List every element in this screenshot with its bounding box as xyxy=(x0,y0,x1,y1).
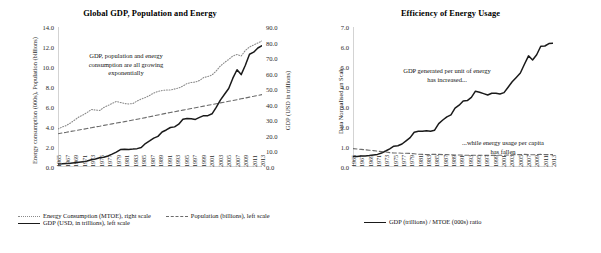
y-axis-title-left: Energy consumption (000s), Population (b… xyxy=(31,31,38,171)
x-tick-label: 1985 xyxy=(140,155,147,167)
y-tick-label: 10.0 xyxy=(42,64,54,71)
legend-swatch-dotted-icon xyxy=(18,213,40,219)
y-tick-label: 30.0 xyxy=(266,117,278,124)
y-tick-label: 70.0 xyxy=(266,55,278,62)
y-tick-label: 50.0 xyxy=(266,86,278,93)
y-tick-label: 0.0 xyxy=(266,164,274,171)
x-tick-label: 1989 xyxy=(157,155,164,167)
y-tick-label: 14.0 xyxy=(42,24,54,31)
x-tick-label: 2013 xyxy=(259,155,266,167)
legend-left: Energy Consumption (MTOE), right scalePo… xyxy=(18,212,300,226)
x-tick-label: 2005 xyxy=(516,155,523,167)
x-tick-label: 1993 xyxy=(466,155,473,167)
x-tick-label: 1967 xyxy=(63,155,70,167)
legend-row: GDP (USD, in trillions), left scale xyxy=(18,219,300,226)
y-tick-label: 10.0 xyxy=(266,148,278,155)
legend-row: GDP (trillions) / MTOE (000s) ratio xyxy=(364,218,594,225)
chart-title-right: Efficiency of Energy Usage xyxy=(300,9,601,18)
legend-item[interactable]: Population (billions), left scale xyxy=(166,212,270,219)
chart-panel-global-gdp: Global GDP, Population and Energy Energy… xyxy=(0,0,300,253)
annotation-growth: GDP, population and energy consumption a… xyxy=(80,52,172,78)
x-tick-label: 1983 xyxy=(131,155,138,167)
x-tick-label: 1977 xyxy=(400,155,407,167)
chart-panel-efficiency: Efficiency of Energy Usage Data Normalis… xyxy=(300,0,601,253)
x-tick-label: 2009 xyxy=(242,155,249,167)
legend-item[interactable]: GDP (USD, in trillions), left scale xyxy=(18,219,130,226)
x-tick-label: 1981 xyxy=(416,155,423,167)
y-tick-label: 20.0 xyxy=(266,132,278,139)
x-tick-label: 2001 xyxy=(208,155,215,167)
x-tick-label: 1983 xyxy=(425,155,432,167)
y-tick-label: 12.0 xyxy=(42,44,54,51)
y-tick-label: 6.0 xyxy=(341,44,349,51)
legend-label: Energy Consumption (MTOE), right scale xyxy=(43,212,151,219)
x-tick-label: 1993 xyxy=(174,155,181,167)
x-tick-label: 2001 xyxy=(500,155,507,167)
annotation-energy-per-capita: ...while energy usage per capita has fal… xyxy=(457,139,549,156)
legend-label: GDP (trillions) / MTOE (000s) ratio xyxy=(389,218,481,225)
y-tick-label: 7.0 xyxy=(341,24,349,31)
x-tick-label: 2013 xyxy=(550,155,557,167)
x-tick-label: 1975 xyxy=(97,155,104,167)
x-tick-label: 1967 xyxy=(358,155,365,167)
x-tick-label: 1981 xyxy=(123,155,130,167)
y-tick-label: 3.0 xyxy=(341,104,349,111)
legend-swatch-dashed-icon xyxy=(166,213,188,219)
series-canvas-left xyxy=(58,27,262,167)
x-tick-label: 2007 xyxy=(233,155,240,167)
x-tick-label: 1971 xyxy=(375,155,382,167)
annotation-gdp-per-energy: GDP generated per unit of energy has inc… xyxy=(399,67,495,84)
plot-area-right: 0.01.02.03.04.05.06.07.0 196519671969197… xyxy=(353,27,553,167)
y-axis-title-right: Data Normalised on Scale xyxy=(337,46,344,156)
x-tick-label: 1973 xyxy=(89,155,96,167)
y-tick-label: 5.0 xyxy=(341,64,349,71)
x-tick-label: 1987 xyxy=(148,155,155,167)
legend-label: Population (billions), left scale xyxy=(191,212,270,219)
x-tick-label: 2009 xyxy=(533,155,540,167)
x-tick-label: 1965 xyxy=(350,155,357,167)
legend-item[interactable]: GDP (trillions) / MTOE (000s) ratio xyxy=(364,218,481,225)
x-tick-label: 1969 xyxy=(366,155,373,167)
x-tick-label: 1969 xyxy=(72,155,79,167)
y-tick-label: 0.0 xyxy=(341,164,349,171)
y-tick-label: 60.0 xyxy=(266,70,278,77)
legend-right: GDP (trillions) / MTOE (000s) ratio xyxy=(364,218,594,225)
legend-item[interactable]: Energy Consumption (MTOE), right scale xyxy=(18,212,151,219)
y-tick-label: 90.0 xyxy=(266,24,278,31)
figure-root: Global GDP, Population and Energy Energy… xyxy=(0,0,601,253)
x-tick-label: 1997 xyxy=(191,155,198,167)
y-tick-label: 2.0 xyxy=(46,144,54,151)
y-tick-label: 4.0 xyxy=(341,84,349,91)
x-tick-label: 2003 xyxy=(508,155,515,167)
y-tick-label: 8.0 xyxy=(46,84,54,91)
x-tick-label: 1991 xyxy=(165,155,172,167)
x-tick-label: 1973 xyxy=(383,155,390,167)
x-tick-label: 2003 xyxy=(216,155,223,167)
x-tick-label: 1975 xyxy=(391,155,398,167)
x-tick-label: 2007 xyxy=(525,155,532,167)
y-tick-label: 2.0 xyxy=(341,124,349,131)
y-axis-title-left-secondary: GDP (USD in trillions) xyxy=(284,46,291,156)
x-tick-label: 1991 xyxy=(458,155,465,167)
legend-swatch-solid-icon xyxy=(18,220,40,226)
x-tick-label: 1999 xyxy=(199,155,206,167)
x-tick-label: 1979 xyxy=(114,155,121,167)
x-tick-label: 1995 xyxy=(475,155,482,167)
x-tick-label: 2005 xyxy=(225,155,232,167)
legend-swatch-solid-icon xyxy=(364,219,386,225)
x-tick-label: 1997 xyxy=(483,155,490,167)
x-tick-label: 2011 xyxy=(541,155,548,167)
y-tick-label: 1.0 xyxy=(341,144,349,151)
x-tick-label: 1977 xyxy=(106,155,113,167)
x-tick-label: 1985 xyxy=(433,155,440,167)
y-tick-label: 6.0 xyxy=(46,104,54,111)
x-tick-label: 1965 xyxy=(55,155,62,167)
x-tick-label: 1989 xyxy=(450,155,457,167)
legend-label: GDP (USD, in trillions), left scale xyxy=(43,219,130,226)
y-tick-label: 4.0 xyxy=(46,124,54,131)
y-tick-label: 40.0 xyxy=(266,101,278,108)
x-tick-label: 1999 xyxy=(491,155,498,167)
plot-area-left: 0.02.04.06.08.010.012.014.0 0.010.020.03… xyxy=(58,27,262,167)
legend-row: Energy Consumption (MTOE), right scalePo… xyxy=(18,212,300,219)
x-tick-label: 1979 xyxy=(408,155,415,167)
